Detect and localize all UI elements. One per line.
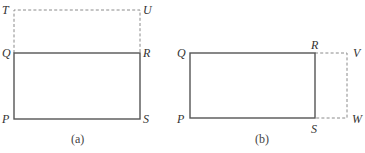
caption-a: (a) xyxy=(71,132,84,146)
dashed-extension-tu xyxy=(14,10,140,53)
label-q-b: Q xyxy=(177,46,186,60)
caption-b: (b) xyxy=(255,132,269,146)
label-q-a: Q xyxy=(2,46,11,60)
label-s-b: S xyxy=(311,122,317,136)
rectangle-pqrs-b xyxy=(190,53,315,118)
label-r-a: R xyxy=(142,46,151,60)
label-v: V xyxy=(353,46,362,60)
label-u: U xyxy=(143,3,153,17)
label-r-b: R xyxy=(310,38,319,52)
label-t: T xyxy=(2,3,10,17)
label-s-a: S xyxy=(143,112,149,126)
label-p-a: P xyxy=(1,112,10,126)
label-p-b: P xyxy=(176,112,185,126)
rectangle-pqrs-a xyxy=(14,53,140,119)
dashed-extension-vw xyxy=(315,53,347,118)
figure-b: Q R P S V W (b) xyxy=(176,38,363,146)
label-w: W xyxy=(352,112,363,126)
diagram-canvas: T U Q R P S (a) Q R P S V W (b) xyxy=(0,0,365,153)
figure-a: T U Q R P S (a) xyxy=(1,3,153,146)
